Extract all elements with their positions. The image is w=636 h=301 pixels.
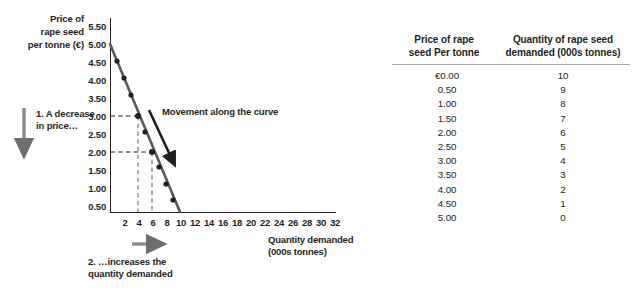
demand-curve-chart: Price of rape seed per tonne (€) 5.50 5.… xyxy=(0,0,380,301)
cell-quantity: 3 xyxy=(496,168,630,182)
cell-quantity: 7 xyxy=(496,111,630,125)
point-100 xyxy=(163,181,168,186)
annotation-increases-quantity: 2. …increases the quantity demanded xyxy=(88,256,198,280)
cell-quantity: 5 xyxy=(496,140,630,154)
cell-price: 2.50 xyxy=(392,140,496,154)
cell-price: 4.00 xyxy=(392,182,496,196)
cell-quantity: 10 xyxy=(496,65,630,84)
cell-price: 1.50 xyxy=(392,111,496,125)
cell-quantity: 6 xyxy=(496,126,630,140)
table-row: 2.50 5 xyxy=(392,140,630,154)
cell-price: 4.50 xyxy=(392,197,496,211)
point-150 xyxy=(156,164,161,169)
table-row: 2.00 6 xyxy=(392,126,630,140)
figure-root: Price of rape seed per tonne (€) 5.50 5.… xyxy=(0,0,636,301)
cell-price: 2.00 xyxy=(392,126,496,140)
table-row: 5.00 0 xyxy=(392,211,630,225)
column-header-quantity-line-1: Quantity of rape seed xyxy=(496,34,630,47)
cell-quantity: 2 xyxy=(496,182,630,196)
point-200 xyxy=(149,149,155,155)
demand-schedule-table: Price of rape seed Per tonne Quantity of… xyxy=(392,34,636,225)
column-header-quantity-line-2: demanded (000s tonnes) xyxy=(496,47,630,60)
table-row: 3.50 3 xyxy=(392,168,630,182)
table-row: 4.50 1 xyxy=(392,197,630,211)
point-050 xyxy=(170,197,175,202)
annotation-decrease-in-price: 1. A decrease in price… xyxy=(36,108,96,132)
cell-quantity: 4 xyxy=(496,154,630,168)
cell-price: 3.00 xyxy=(392,154,496,168)
table-row: 1.50 7 xyxy=(392,111,630,125)
column-header-price-line-1: Price of rape xyxy=(392,34,496,47)
point-300 xyxy=(135,113,141,119)
table-row: 3.00 4 xyxy=(392,154,630,168)
cell-quantity: 9 xyxy=(496,83,630,97)
cell-quantity: 1 xyxy=(496,197,630,211)
cell-price: 0.50 xyxy=(392,83,496,97)
cell-price: 1.00 xyxy=(392,97,496,111)
table-row: 4.00 2 xyxy=(392,182,630,196)
demand-curve xyxy=(110,44,180,212)
table-row: 0.50 9 xyxy=(392,83,630,97)
column-header-price-line-2: seed Per tonne xyxy=(392,47,496,60)
cell-quantity: 8 xyxy=(496,97,630,111)
cell-price: €0.00 xyxy=(392,65,496,84)
annotation-movement-along-curve: Movement along the curve xyxy=(162,106,282,118)
table-row: €0.00 10 xyxy=(392,65,630,84)
point-400 xyxy=(121,75,126,80)
point-450 xyxy=(114,58,119,63)
guide-price-200 xyxy=(111,152,153,212)
point-350 xyxy=(128,92,133,97)
column-header-price: Price of rape seed Per tonne xyxy=(392,34,496,65)
table-row: 1.00 8 xyxy=(392,97,630,111)
table-header-row: Price of rape seed Per tonne Quantity of… xyxy=(392,34,630,65)
cell-price: 3.50 xyxy=(392,168,496,182)
column-header-quantity: Quantity of rape seed demanded (000s ton… xyxy=(496,34,630,65)
cell-price: 5.00 xyxy=(392,211,496,225)
cell-quantity: 0 xyxy=(496,211,630,225)
guide-price-300 xyxy=(111,116,139,212)
point-250 xyxy=(142,129,147,134)
